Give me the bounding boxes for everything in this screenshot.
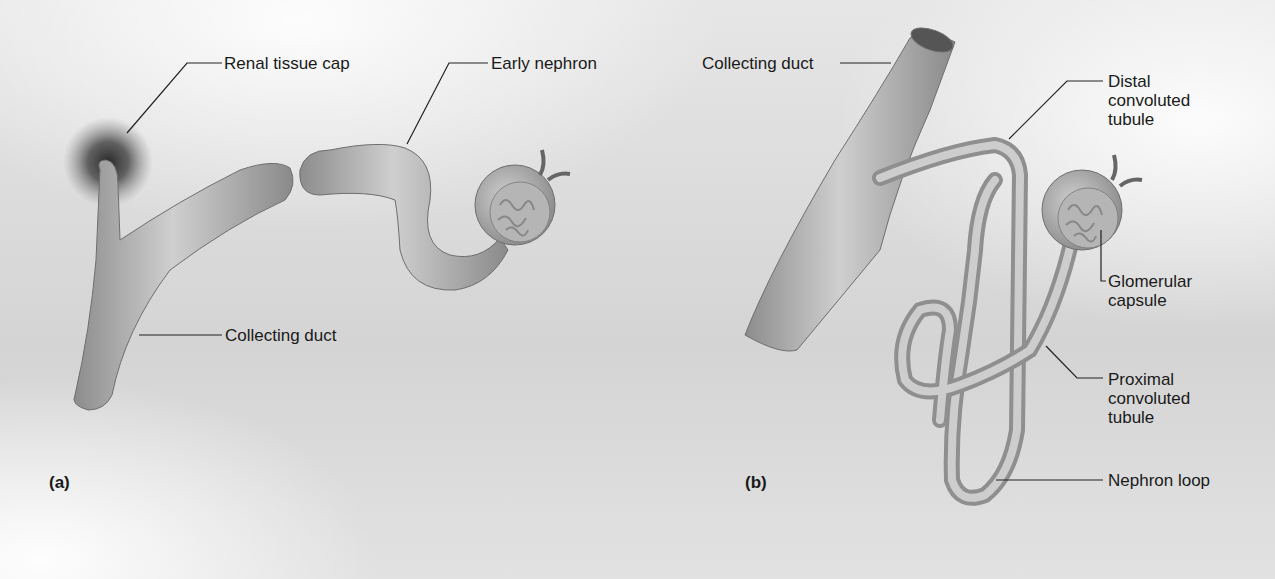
label-collecting-duct-b: Collecting duct: [702, 54, 814, 73]
label-line: capsule: [1108, 291, 1192, 310]
label-line: convoluted: [1108, 91, 1190, 110]
collecting-duct-a: [74, 160, 293, 410]
label-line: convoluted: [1108, 389, 1190, 408]
panel-b-drawing: [745, 23, 1142, 498]
label-line: tubule: [1108, 408, 1190, 427]
label-renal-tissue-cap: Renal tissue cap: [224, 54, 350, 73]
label-glomerular-capsule: Glomerular capsule: [1108, 272, 1192, 310]
label-line: Distal: [1108, 72, 1190, 91]
label-line: Glomerular: [1108, 272, 1192, 291]
label-distal-convoluted-tubule: Distal convoluted tubule: [1108, 72, 1190, 129]
label-collecting-duct-a: Collecting duct: [225, 326, 337, 345]
label-early-nephron: Early nephron: [491, 54, 597, 73]
nephron-illustration: [0, 0, 1275, 579]
label-line: Proximal: [1108, 370, 1190, 389]
label-nephron-loop: Nephron loop: [1108, 471, 1210, 490]
panel-a-drawing: [63, 117, 570, 410]
label-line: tubule: [1108, 110, 1190, 129]
label-proximal-convoluted-tubule: Proximal convoluted tubule: [1108, 370, 1190, 427]
panel-a-leader-lines: [127, 63, 488, 335]
panel-letter-a: (a): [49, 473, 70, 493]
panel-letter-b: (b): [745, 473, 767, 493]
